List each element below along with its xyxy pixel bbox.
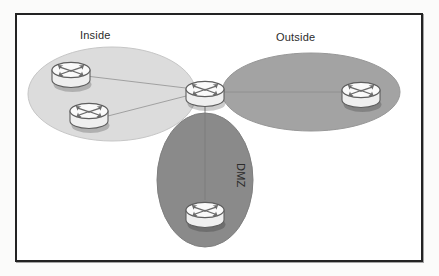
router-icon-inside-bottom[interactable] [70,103,110,133]
router-icon-inside-top[interactable] [52,62,92,92]
router-icon-dmz[interactable] [186,202,226,232]
router-icon-outside[interactable] [342,82,382,112]
network-diagram-figure: Inside Outside DMZ [0,0,439,276]
zone-label-dmz: DMZ [235,163,247,187]
zone-ellipse-inside[interactable] [28,47,196,141]
router-icon-firewall-hub[interactable] [186,81,226,111]
zone-label-outside: Outside [276,31,315,43]
zone-label-inside: Inside [80,29,111,41]
diagram-canvas [0,0,439,276]
